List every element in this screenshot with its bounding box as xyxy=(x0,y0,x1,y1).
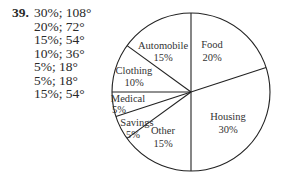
divider-food-housing xyxy=(191,68,266,92)
slice-label-food: Food xyxy=(201,39,223,50)
slice-label-other: Other xyxy=(151,125,175,136)
slice-pct-medical: 5% xyxy=(112,104,126,115)
slice-label-housing: Housing xyxy=(210,111,246,122)
slice-label-automobile: Automobile xyxy=(138,40,189,51)
slice-pct-housing: 30% xyxy=(218,124,238,135)
slice-label-clothing: Clothing xyxy=(116,65,154,76)
pie-chart: Food 20% Housing 30% Other 15% Savings 5… xyxy=(0,0,282,184)
slice-label-savings: Savings xyxy=(120,117,153,128)
slice-pct-other: 15% xyxy=(153,138,173,149)
slice-pct-clothing: 10% xyxy=(124,77,144,88)
slice-label-medical: Medical xyxy=(111,93,145,104)
slice-pct-automobile: 15% xyxy=(153,52,173,63)
slice-pct-food: 20% xyxy=(202,52,222,63)
slice-pct-savings: 5% xyxy=(126,129,140,140)
